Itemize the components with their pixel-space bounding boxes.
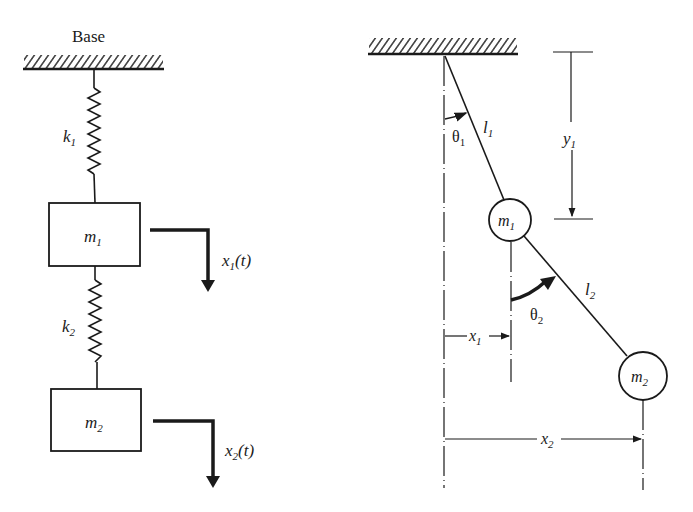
displacement-x1-arrow — [150, 230, 215, 292]
spring-mass-system: Base k1 m1 x1(t) k2 m2 — [23, 27, 254, 488]
dimension-x2-label: x2 — [540, 430, 554, 450]
dimension-y1 — [553, 52, 593, 219]
double-pendulum: l1 θ1 m1 l2 θ2 m2 y1 x1 — [368, 38, 667, 490]
angle-theta2-arc — [511, 281, 546, 300]
displacement-x2-arrow — [153, 421, 220, 488]
dimension-x1-label: x1 — [468, 327, 482, 347]
spring-k1 — [88, 69, 100, 203]
displacement-x1-label: x1(t) — [221, 251, 251, 272]
base-label: Base — [72, 27, 105, 46]
dimension-y1-label: y1 — [561, 129, 576, 150]
base-support — [23, 55, 164, 69]
displacement-x2-label: x2(t) — [224, 441, 254, 462]
ceiling-support — [368, 38, 518, 54]
spring-k2-label: k2 — [62, 317, 76, 338]
angle-theta2-label: θ2 — [530, 306, 543, 326]
spring-k1-label: k1 — [63, 127, 76, 148]
rod-l1-label: l1 — [483, 118, 493, 139]
spring-k2 — [89, 266, 101, 389]
angle-theta1-label: θ1 — [452, 128, 465, 148]
diagram-canvas: Base k1 m1 x1(t) k2 m2 — [0, 0, 693, 512]
rod-l2-label: l2 — [585, 280, 596, 301]
angle-theta1-arc — [445, 113, 466, 119]
pendulum-rod-l2 — [524, 236, 627, 356]
